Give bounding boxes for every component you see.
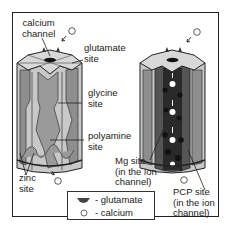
label-line: Mg site (115, 156, 157, 167)
label-line: channel (22, 29, 55, 40)
glycine-site-label: glycine site (88, 88, 118, 109)
calcium-channel-label: calcium channel (22, 18, 55, 39)
right-channel-cylinder (140, 47, 205, 173)
legend: - glutamate - calcium (67, 191, 155, 220)
label-line: site (88, 99, 118, 110)
polyamine-site-label: polyamine site (88, 131, 131, 152)
arrow-icon (62, 36, 66, 41)
label-line: glycine (88, 88, 118, 99)
label-line: glutamate (84, 43, 126, 54)
label-line: site (84, 54, 126, 65)
label-line: channel) (173, 208, 215, 219)
glutamate-site-label: glutamate site (84, 43, 126, 64)
mg-site-label: Mg site (in the ion channel) (115, 156, 157, 188)
calcium-ion-icon (69, 28, 76, 35)
label-line: zinc (19, 173, 36, 184)
label-line: calcium (22, 18, 55, 29)
calcium-circle-icon (81, 210, 87, 216)
label-line: site (88, 142, 131, 153)
calcium-ion-icon (181, 177, 188, 184)
label-line: PCP site (173, 187, 215, 198)
legend-glutamate-label: - glutamate (95, 194, 143, 205)
zinc-site-label: zinc site (19, 173, 36, 194)
label-line: channel) (115, 177, 157, 188)
pcp-site-label: PCP site (in the ion channel) (173, 187, 215, 219)
label-line: site (19, 184, 36, 195)
legend-calcium-label: - calcium (95, 207, 133, 218)
label-line: polyamine (88, 131, 131, 142)
arrow-icon (187, 37, 191, 42)
calcium-ion-icon (194, 29, 201, 36)
calcium-ion-icon (55, 178, 62, 185)
left-channel-cylinder (17, 47, 82, 173)
glutamate-shape-icon (77, 198, 90, 203)
